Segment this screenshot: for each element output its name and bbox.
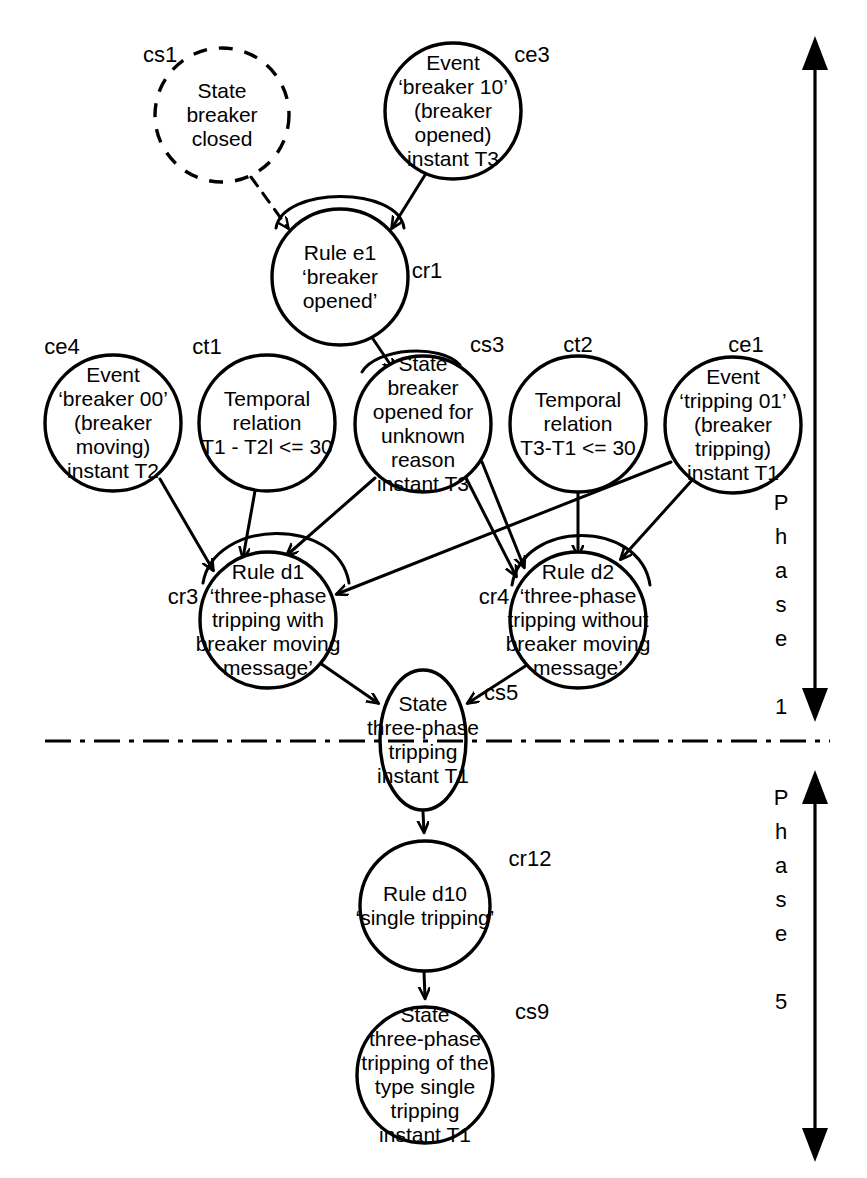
node-ce1[interactable]: Event‘tripping 01’(breakertripping)insta…: [665, 357, 801, 493]
phase-markers-layer: Phase1Phase5: [774, 36, 828, 1162]
node-cr3[interactable]: Rule d1‘three-phasetripping withbreaker …: [196, 552, 341, 688]
node-label-cs9: tripping of the: [361, 1051, 488, 1074]
node-label-cs5: instant T1: [377, 764, 469, 787]
node-label-ce4: instant T2: [67, 459, 159, 482]
node-label-ct2: Temporal: [535, 388, 621, 411]
node-label-ce3: instant T3: [407, 147, 499, 170]
node-label-cr3: tripping with: [212, 608, 324, 631]
node-label-ce3: Event: [426, 51, 480, 74]
node-label-cr3: breaker moving: [196, 632, 341, 655]
phase-5-arrowhead-top: [802, 770, 828, 804]
phase-label-letter-phase5: 5: [775, 989, 787, 1014]
node-label-cr3: message’: [223, 656, 313, 679]
node-tag-cs1: cs1: [143, 42, 177, 67]
phase-1-arrowhead-bottom: [802, 688, 828, 722]
phase-label-letter-phase5: e: [775, 921, 787, 946]
node-cs1[interactable]: Statebreakerclosed: [155, 48, 289, 182]
node-label-cr1: Rule e1: [304, 241, 376, 264]
node-label-ce4: Event: [86, 363, 140, 386]
node-cr1[interactable]: Rule e1‘breakeropened’: [272, 209, 408, 345]
node-tag-ct1: ct1: [192, 334, 221, 359]
node-tag-cr1: cr1: [412, 258, 443, 283]
node-tag-ce3: ce3: [514, 42, 549, 67]
edge-ct1-cr3: [243, 491, 255, 558]
phase-1-arrowhead-top: [802, 36, 828, 70]
edge-cr3-cs5: [320, 663, 378, 703]
phase-label-letter-phase1: e: [775, 626, 787, 651]
node-label-cr4: Rule d2: [542, 560, 614, 583]
phase-label-letter-phase5: P: [774, 785, 789, 810]
node-label-cr4: ‘three-phase: [520, 584, 637, 607]
edge-cr12-cs9: [424, 972, 425, 998]
edge-ce1-cr4: [621, 478, 694, 559]
node-label-cr4: breaker moving: [506, 632, 651, 655]
edge-cs1-cr1: [251, 177, 288, 228]
node-label-cs3: breaker: [387, 376, 458, 399]
node-label-ce1: (breaker: [694, 413, 772, 436]
node-tag-ce4: ce4: [44, 334, 79, 359]
node-label-cs1: State: [197, 79, 246, 102]
node-label-ce1: tripping): [695, 437, 771, 460]
diagram-canvas: StatebreakerclosedEvent‘breaker 10’(brea…: [0, 0, 867, 1178]
node-label-cs5: tripping: [389, 740, 458, 763]
node-cr12[interactable]: Rule d10‘single tripping’: [356, 841, 495, 971]
node-label-cs9: State: [400, 1003, 449, 1026]
node-label-ct1: relation: [233, 411, 302, 434]
node-label-cr4: message’: [533, 656, 623, 679]
node-tag-cr3: cr3: [168, 584, 199, 609]
phase-label-letter-phase1: 1: [775, 694, 787, 719]
phase-1-marker: [802, 36, 828, 722]
phase-5-arrowhead-bottom: [802, 1128, 828, 1162]
node-label-ct2: relation: [544, 412, 613, 435]
nodes-layer: StatebreakerclosedEvent‘breaker 10’(brea…: [44, 42, 801, 1146]
node-label-cs1: closed: [192, 127, 253, 150]
node-tag-cs9: cs9: [515, 999, 549, 1024]
node-label-ct2: T3-T1 <= 30: [520, 436, 636, 459]
phase-label-letter-phase1: s: [776, 592, 787, 617]
node-label-cs3: unknown: [381, 424, 465, 447]
node-tag-cs5: cs5: [484, 680, 518, 705]
phase-label-letter-phase1: P: [774, 490, 789, 515]
node-cs3[interactable]: Statebreakeropened forunknownreasoninsta…: [355, 352, 491, 495]
node-label-cs9: three-phase: [369, 1027, 481, 1050]
node-label-cs3: opened for: [373, 400, 473, 423]
edge-cs5-cr12: [423, 812, 424, 832]
node-label-ct1: Temporal: [224, 387, 310, 410]
phase-labels-layer: Phase1Phase5: [774, 490, 789, 1014]
node-ct2[interactable]: TemporalrelationT3-T1 <= 30: [510, 356, 646, 492]
node-label-cr12: Rule d10: [383, 882, 467, 905]
node-cr4[interactable]: Rule d2‘three-phasetripping withoutbreak…: [506, 552, 651, 688]
edge-ce3-cr1: [392, 175, 425, 228]
phase-label-letter-phase5: s: [776, 887, 787, 912]
node-tag-cr12: cr12: [509, 846, 552, 871]
node-label-ce1: Event: [706, 365, 760, 388]
node-label-ce3: opened): [414, 123, 491, 146]
node-cs9[interactable]: Statethree-phasetripping of thetype sing…: [357, 1003, 493, 1146]
node-label-cs3: State: [398, 352, 447, 375]
node-label-ce4: moving): [76, 435, 151, 458]
node-label-cs5: State: [398, 692, 447, 715]
phase-label-letter-phase5: h: [775, 819, 787, 844]
rule-network-diagram: StatebreakerclosedEvent‘breaker 10’(brea…: [0, 0, 867, 1178]
edge-ce4-cr3: [160, 479, 213, 570]
node-ce4[interactable]: Event‘breaker 00’(breakermoving)instant …: [45, 355, 181, 491]
node-label-ce1: ‘tripping 01’: [679, 389, 786, 412]
node-label-ce4: ‘breaker 00’: [58, 387, 168, 410]
node-label-cr1: ‘breaker: [302, 265, 378, 288]
phase-label-letter-phase1: h: [775, 524, 787, 549]
phase-label-letter-phase5: a: [775, 853, 788, 878]
node-ct1[interactable]: TemporalrelationT1 - T2l <= 30: [199, 355, 335, 491]
node-label-cr1: opened’: [303, 289, 378, 312]
node-label-ce1: instant T1: [687, 461, 779, 484]
node-tag-cs3: cs3: [470, 332, 504, 357]
node-ce3[interactable]: Event‘breaker 10’(breakeropened)instant …: [385, 43, 521, 179]
node-tag-ce1: ce1: [728, 332, 763, 357]
node-label-cr3: ‘three-phase: [210, 584, 327, 607]
edge-cs3-cr3: [287, 478, 375, 555]
node-label-ce3: (breaker: [414, 99, 492, 122]
node-label-cs3: instant T3: [377, 472, 469, 495]
node-label-cs1: breaker: [186, 103, 257, 126]
node-label-cs9: type single: [375, 1075, 475, 1098]
node-label-ce3: ‘breaker 10’: [398, 75, 508, 98]
node-label-cs5: three-phase: [367, 716, 479, 739]
